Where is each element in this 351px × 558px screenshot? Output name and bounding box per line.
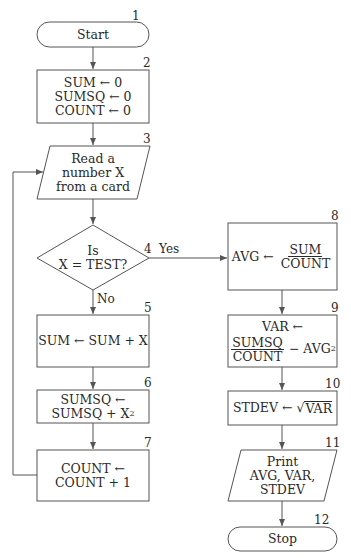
sumsq-expression: SUMSQ + X — [51, 407, 129, 421]
stdev-formula: STDEV ← √VAR — [233, 401, 332, 415]
var-line-1: VAR ← — [262, 320, 303, 334]
step-number-5: 5 — [144, 302, 152, 314]
step-number-11: 11 — [325, 437, 340, 449]
var-box: VAR ← SUMSQ COUNT − AVG2 — [228, 315, 337, 367]
sum-box: SUM ← SUM + X — [37, 315, 149, 367]
start-terminal: Start — [37, 22, 149, 47]
read-line-1: Read a — [71, 152, 115, 166]
step-number-12: 12 — [314, 514, 329, 526]
stdev-lhs: STDEV ← — [233, 401, 293, 415]
print-line-3: STDEV — [260, 483, 305, 497]
no-edge-label: No — [97, 293, 115, 305]
decision: Is X = TEST? — [50, 240, 136, 276]
avg-formula: AVG ← SUM COUNT — [232, 243, 334, 270]
step-number-10: 10 — [325, 378, 340, 390]
print-output: Print AVG, VAR, STDEV — [234, 450, 331, 501]
step-number-2: 2 — [143, 57, 151, 69]
read-line-3: from a card — [56, 180, 130, 194]
init-box: SUM ← 0 SUMSQ ← 0 COUNT ← 0 — [37, 70, 149, 123]
read-input: Read a number X from a card — [43, 146, 143, 199]
numerator: SUMSQ — [231, 336, 284, 350]
step-number-4: 4 — [144, 243, 152, 255]
stdev-box: STDEV ← √VAR — [228, 391, 337, 425]
denominator: COUNT — [280, 257, 332, 270]
var-tail: − AVG — [289, 342, 331, 356]
print-line-1: Print — [267, 455, 298, 469]
step-number-9: 9 — [331, 302, 339, 314]
init-line-2: SUMSQ ← 0 — [54, 90, 131, 104]
avg-box: AVG ← SUM COUNT — [228, 223, 337, 290]
step-number-3: 3 — [143, 133, 151, 145]
print-line-2: AVG, VAR, — [250, 469, 316, 483]
stop-label: Stop — [268, 532, 297, 546]
start-label: Start — [77, 28, 109, 42]
var-formula: SUMSQ COUNT − AVG2 — [229, 336, 336, 363]
stop-terminal: Stop — [228, 527, 337, 551]
count-line-1: COUNT ← — [61, 462, 125, 476]
step-number-6: 6 — [144, 377, 152, 389]
step-number-8: 8 — [331, 210, 339, 222]
avg-lhs: AVG ← — [232, 250, 274, 264]
step-number-1: 1 — [132, 10, 140, 22]
count-box: COUNT ← COUNT + 1 — [37, 450, 149, 501]
yes-edge-label: Yes — [159, 243, 179, 255]
init-line-3: COUNT ← 0 — [55, 104, 131, 118]
read-line-2: number X — [62, 166, 124, 180]
denominator: COUNT — [232, 350, 284, 363]
decision-line-1: Is — [87, 244, 98, 258]
numerator: SUM — [288, 243, 322, 257]
sumsq-line-2: SUMSQ + X2 — [51, 407, 134, 421]
sumsq-line-1: SUMSQ ← — [60, 393, 125, 407]
var-fraction: SUMSQ COUNT — [231, 336, 284, 363]
sumsq-box: SUMSQ ← SUMSQ + X2 — [37, 390, 149, 423]
radicand: VAR — [304, 401, 332, 415]
count-line-2: COUNT + 1 — [55, 476, 131, 490]
sum-line-1: SUM ← SUM + X — [38, 334, 148, 348]
avg-fraction: SUM COUNT — [280, 243, 332, 270]
step-number-7: 7 — [144, 437, 152, 449]
init-line-1: SUM ← 0 — [64, 76, 122, 90]
decision-line-2: X = TEST? — [59, 258, 127, 272]
sqrt-icon: √ — [296, 401, 304, 415]
